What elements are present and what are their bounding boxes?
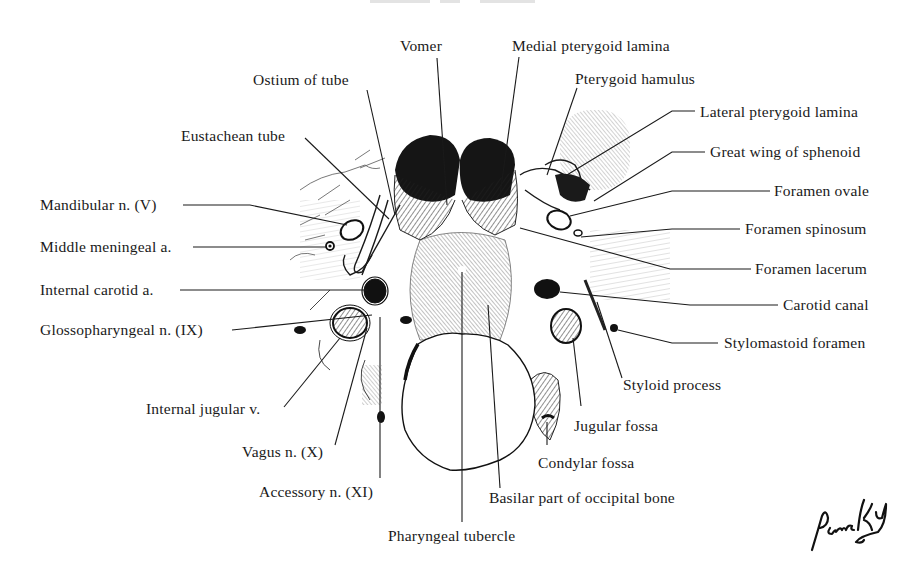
- label-jugular-fossa: Jugular fossa: [574, 417, 658, 435]
- label-vomer: Vomer: [400, 37, 442, 55]
- label-internal-jugular-v: Internal jugular v.: [146, 400, 260, 418]
- choanae: [394, 135, 517, 240]
- label-foramen-ovale: Foramen ovale: [774, 182, 869, 200]
- label-carotid-canal: Carotid canal: [783, 296, 869, 314]
- artist-signature: Pansky: [800, 490, 900, 560]
- label-condylar-fossa: Condylar fossa: [538, 454, 634, 472]
- foramen-magnum: [402, 333, 535, 470]
- label-eustachean-tube: Eustachean tube: [181, 127, 285, 145]
- label-vagus-n: Vagus n. (X): [242, 443, 323, 461]
- label-styloid-process: Styloid process: [623, 376, 721, 394]
- label-ostium-of-tube: Ostium of tube: [253, 71, 349, 89]
- label-middle-meningeal-a: Middle meningeal a.: [40, 238, 172, 256]
- basilar-part: [410, 233, 511, 341]
- label-internal-carotid-a: Internal carotid a.: [40, 281, 154, 299]
- label-accessory-n: Accessory n. (XI): [259, 483, 373, 501]
- label-medial-pterygoid-lamina: Medial pterygoid lamina: [512, 37, 670, 55]
- label-pterygoid-hamulus: Pterygoid hamulus: [575, 70, 695, 88]
- label-great-wing-of-sphenoid: Great wing of sphenoid: [710, 143, 860, 161]
- label-basilar-part-of-occipital-bone: Basilar part of occipital bone: [489, 489, 675, 507]
- label-pharyngeal-tubercle: Pharyngeal tubercle: [388, 527, 515, 545]
- label-stylomastoid-foramen: Stylomastoid foramen: [724, 334, 865, 352]
- label-mandibular-n: Mandibular n. (V): [40, 196, 157, 214]
- anatomical-figure: Vomer Medial pterygoid lamina Ostium of …: [0, 0, 923, 578]
- label-foramen-spinosum: Foramen spinosum: [745, 220, 867, 238]
- label-lateral-pterygoid-lamina: Lateral pterygoid lamina: [700, 103, 858, 121]
- label-glossopharyngeal-n: Glossopharyngeal n. (IX): [40, 321, 203, 339]
- label-foramen-lacerum: Foramen lacerum: [755, 260, 867, 278]
